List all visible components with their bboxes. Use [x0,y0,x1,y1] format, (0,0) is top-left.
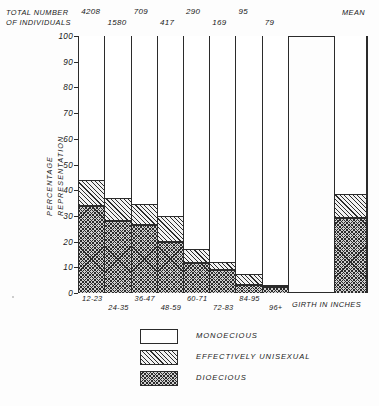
bar-segment-monoecious [158,36,183,216]
bar-segment-unisexual [236,274,261,286]
legend-item[interactable]: MONOECIOUS [140,327,360,348]
x-axis-tick-label: 72-83 [213,303,233,312]
sample-size-value: 709 [134,7,148,16]
y-axis-tick-label: 0 [68,289,73,298]
bar-segment-monoecious [132,36,157,204]
x-axis-tick-label: 48-59 [161,303,181,312]
x-axis-tick-label: 36-47 [134,294,154,303]
y-axis-tick-mark [74,165,78,166]
bar-segment-dioecious [236,285,261,293]
bar-segment-monoecious [79,36,104,180]
y-axis-title-line1: PERCENTAGE [45,156,54,216]
bar-column[interactable] [105,36,131,293]
bar-segment-dioecious [132,225,157,293]
x-axis-tick-label: 12-23 [82,294,102,303]
y-axis-tick-mark [74,113,78,114]
y-axis-tick-label: 100 [58,32,73,41]
bar-column[interactable] [79,36,105,293]
legend-label: MONOECIOUS [196,331,258,340]
bar-segment-monoecious [210,36,235,262]
legend: MONOECIOUSEFFECTIVELY UNISEXUALDIOECIOUS [140,327,360,390]
y-axis-tick-label: 60 [63,134,73,143]
total-individuals-label-line1: TOTAL NUMBER [6,8,68,17]
legend-item[interactable]: EFFECTIVELY UNISEXUAL [140,348,360,369]
bar-segment-monoecious [184,36,209,249]
y-axis-tick-label: 40 [63,186,73,195]
bar-segment-dioecious [105,221,130,293]
sample-size-value: 1580 [108,18,127,27]
y-axis-title-line2: REPRESENTATION [56,136,65,216]
bar-column[interactable] [132,36,158,293]
y-axis-tick-mark [74,87,78,88]
x-axis-tick-label: 84-95 [239,294,259,303]
legend-swatch [140,371,178,386]
y-axis-tick-mark [74,139,78,140]
y-axis-tick-label: 80 [63,83,73,92]
y-axis-tick-mark [74,216,78,217]
y-axis-tick-label: 90 [63,57,73,66]
bar-column[interactable] [210,36,236,293]
y-axis-tick-mark [74,190,78,191]
legend-label: DIOECIOUS [196,373,247,382]
legend-swatch [140,350,178,365]
bar-segment-dioecious [335,218,366,293]
plot-area: 0102030405060708090100 [78,36,368,293]
bar-segment-unisexual [105,198,130,221]
x-axis-tick-label: 96+ [269,303,282,312]
legend-item[interactable]: DIOECIOUS [140,369,360,390]
figure-canvas: TOTAL NUMBER OF INDIVIDUALS MEAN 4208158… [0,0,379,406]
bar-column[interactable] [263,36,289,293]
bar-segment-unisexual [184,249,209,263]
bar-column[interactable] [158,36,184,293]
sample-size-value: 79 [265,18,275,27]
sample-size-value: 290 [186,7,200,16]
sample-size-value: 169 [212,18,226,27]
bar-segment-monoecious [263,36,288,285]
x-axis-title: GIRTH IN INCHES [292,300,361,309]
sample-size-value: 95 [239,7,249,16]
bar-segment-dioecious [210,270,235,293]
bar-column-spacer [289,36,335,293]
bar-segment-unisexual [335,194,366,218]
bar-column[interactable] [236,36,262,293]
bar-segment-unisexual [158,216,183,242]
bar-segment-dioecious [184,263,209,293]
sample-size-value: 4208 [81,7,100,16]
y-axis-tick-label: 10 [63,263,73,272]
bar-segment-monoecious [335,36,366,194]
mean-column-label: MEAN [342,8,365,17]
legend-swatch [140,329,178,344]
y-axis-tick-mark [74,267,78,268]
y-axis-tick-label: 50 [63,160,73,169]
bar-segment-monoecious [105,36,130,198]
y-axis-tick-label: 70 [63,109,73,118]
y-axis-tick-label: 30 [63,211,73,220]
bar-segment-monoecious [236,36,261,274]
x-axis-tick-label: 60-71 [187,294,207,303]
y-axis-tick-mark [74,36,78,37]
y-axis-tick-mark [74,293,78,294]
bar-segment-dioecious [263,287,288,293]
total-individuals-label-line2: OF INDIVIDUALS [6,18,71,27]
bar-segment-dioecious [79,206,104,293]
bar-segment-unisexual [79,180,104,206]
sample-size-value: 417 [160,18,174,27]
bar-column[interactable] [335,36,367,293]
legend-label: EFFECTIVELY UNISEXUAL [196,352,310,361]
y-axis-tick-label: 20 [63,237,73,246]
bar-segment-unisexual [210,262,235,270]
scan-speck [12,296,14,298]
y-axis-title: PERCENTAGE REPRESENTATION [36,118,60,218]
bar-column[interactable] [184,36,210,293]
y-axis-tick-mark [74,62,78,63]
y-axis-tick-mark [74,242,78,243]
x-axis-tick-label: 24-35 [108,303,128,312]
bar-segment-dioecious [158,242,183,293]
bar-segment-unisexual [132,204,157,225]
